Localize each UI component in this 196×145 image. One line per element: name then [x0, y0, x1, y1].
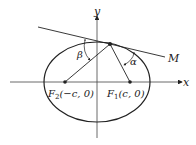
tangent-line: [38, 27, 165, 57]
y-axis-label: y: [93, 5, 101, 18]
angle-beta-start-dot: [84, 39, 86, 41]
focus-f1-coords: (c, 0): [118, 88, 144, 99]
angle-beta-label: β: [76, 49, 83, 60]
focus-f2-coords: (−c, 0): [59, 88, 94, 99]
tangent-label: M: [167, 52, 180, 65]
focus-f1-label: F1(c, 0): [106, 88, 145, 101]
angle-alpha-label: α: [130, 56, 137, 67]
angle-alpha-start-dot: [133, 52, 135, 54]
focal-radius-f2: [65, 44, 110, 82]
focus-f2-point: [63, 80, 67, 84]
tangent-point: [108, 42, 112, 46]
focus-f1-point: [128, 80, 132, 84]
focus-f2-label: F2(−c, 0): [47, 88, 94, 101]
ellipse-diagram: x y M β α F2(−c, 0) F1(c, 0): [0, 0, 196, 145]
x-axis-label: x: [183, 76, 190, 89]
